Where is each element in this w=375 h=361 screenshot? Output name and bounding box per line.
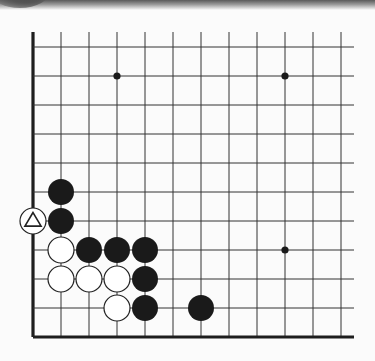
white-stone[interactable] [48,237,74,263]
white-stone[interactable] [20,208,46,234]
black-stone[interactable] [132,237,158,263]
black-stone-icon [76,237,102,263]
star-point-icon [281,246,288,253]
black-stone-icon [48,179,74,205]
white-stone[interactable] [76,266,102,292]
black-stone-icon [48,208,74,234]
black-stone-icon [132,266,158,292]
black-stone[interactable] [76,237,102,263]
white-stone[interactable] [48,266,74,292]
white-stone-icon [76,266,102,292]
star-point-icon [281,72,288,79]
white-stone-icon [104,295,130,321]
black-stone[interactable] [132,266,158,292]
white-stone-icon [104,266,130,292]
black-stone-icon [132,295,158,321]
black-stone[interactable] [132,295,158,321]
star-point-icon [113,72,120,79]
black-stone[interactable] [188,295,214,321]
black-stone[interactable] [48,179,74,205]
black-stone-icon [132,237,158,263]
black-stone[interactable] [48,208,74,234]
white-stone[interactable] [104,266,130,292]
black-stone[interactable] [104,237,130,263]
board-grid [33,32,354,337]
white-stone-icon [48,266,74,292]
go-diagram-scene [0,0,375,361]
white-stone-icon [48,237,74,263]
black-stone-icon [104,237,130,263]
white-stone[interactable] [104,295,130,321]
black-stone-icon [188,295,214,321]
go-board[interactable] [0,0,375,361]
